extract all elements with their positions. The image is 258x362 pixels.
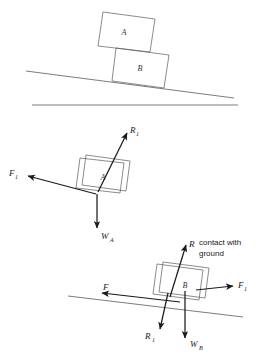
- label-wa: W A: [101, 231, 114, 243]
- label-wb-subscript: B: [199, 345, 203, 351]
- label-f1-a: F 1: [8, 168, 18, 180]
- situation-diagram: A B: [26, 12, 238, 105]
- arrow-r1-b: [160, 293, 168, 329]
- label-wa-symbol: W: [101, 231, 110, 241]
- label-f1-a-subscript: 1: [15, 174, 18, 180]
- label-r1-symbol: R: [129, 125, 136, 135]
- label-r1-b: R 1: [144, 331, 155, 343]
- annotation-contact-with-ground: contact with ground: [199, 238, 241, 258]
- incline-surface: [26, 71, 234, 98]
- block-b-label: B: [138, 64, 143, 73]
- block-b: B: [112, 48, 169, 88]
- block-a: A: [98, 12, 155, 52]
- physics-force-diagram: A B A R 1 F 1 W A: [0, 0, 258, 362]
- label-wb: W B: [190, 339, 203, 351]
- label-r1: R 1: [129, 125, 139, 137]
- label-f-b-symbol: F: [102, 282, 109, 292]
- block-a-label: A: [121, 28, 127, 37]
- fbd-a-block: A: [76, 155, 130, 193]
- fbd-b-block: B: [153, 262, 209, 300]
- label-r1-b-symbol: R: [144, 331, 151, 341]
- label-f1-b-symbol: F: [237, 280, 244, 290]
- label-r-symbol: R: [188, 239, 195, 249]
- arrow-f1-a: [28, 176, 96, 194]
- arrow-f1-b: [196, 286, 233, 290]
- label-r1-subscript: 1: [136, 131, 139, 137]
- annotation-line-2: ground: [199, 249, 224, 258]
- free-body-diagram-block-a: A R 1 F 1 W A: [8, 125, 139, 243]
- label-wb-symbol: W: [190, 339, 199, 349]
- label-f1-b-subscript: 1: [244, 286, 247, 292]
- label-r1-b-subscript: 1: [152, 337, 155, 343]
- label-wa-subscript: A: [109, 237, 114, 243]
- fbd-b-block-label: B: [183, 281, 188, 290]
- free-body-diagram-block-b: B R contact with ground F 1 F R 1 W B: [68, 238, 247, 351]
- label-f1-b: F 1: [237, 280, 247, 292]
- label-f1-a-symbol: F: [8, 168, 15, 178]
- annotation-line-1: contact with: [199, 238, 241, 247]
